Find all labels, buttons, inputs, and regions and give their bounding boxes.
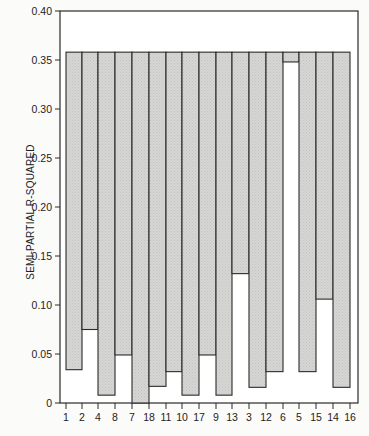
bars (66, 52, 350, 403)
x-tick-label: 6 (280, 411, 286, 423)
bar-10-17 (182, 52, 199, 395)
dendrogram-bar-chart: 00.050.100.150.200.250.300.350.40 124871… (0, 0, 369, 436)
x-tick-label: 12 (260, 411, 272, 423)
bar-9-13 (216, 52, 232, 395)
y-tick-label: 0.35 (32, 54, 53, 66)
x-tick-label: 7 (129, 411, 135, 423)
bar-13-3 (232, 52, 249, 273)
x-tick-label: 5 (296, 411, 302, 423)
x-tick-label: 11 (161, 411, 172, 423)
x-tick-label: 2 (79, 411, 85, 423)
bar-11-10 (166, 52, 182, 371)
y-tick-label: 0 (46, 397, 52, 409)
y-tick-label: 0.40 (32, 5, 53, 17)
bar-4-8 (98, 52, 115, 395)
bar-18-11 (149, 52, 166, 386)
x-axis: 124871811101791331265151416 (63, 403, 356, 423)
y-tick-label: 0.10 (32, 299, 53, 311)
x-tick-label: 15 (310, 411, 322, 423)
bar-15-14 (316, 52, 333, 299)
x-tick-label: 14 (327, 411, 339, 423)
x-tick-label: 18 (143, 411, 155, 423)
x-tick-label: 3 (246, 411, 252, 423)
y-tick-label: 0.05 (32, 348, 53, 360)
bar-17-9 (199, 52, 216, 355)
x-tick-label: 4 (95, 411, 101, 423)
y-tick-label: 0.30 (32, 103, 53, 115)
x-tick-label: 16 (344, 411, 356, 423)
bar-3-12 (249, 52, 266, 387)
bar-12-6 (266, 52, 283, 371)
x-tick-label: 9 (213, 411, 219, 423)
bar-6-5 (283, 52, 299, 62)
x-tick-label: 8 (112, 411, 118, 423)
x-tick-label: 13 (226, 411, 238, 423)
x-tick-label: 10 (176, 411, 188, 423)
y-axis-title: SEMI-PARTIAL R-SQUARED (25, 144, 36, 279)
bar-8-7 (115, 52, 132, 355)
x-tick-label: 17 (193, 411, 205, 423)
bar-7-18 (132, 52, 149, 403)
bar-14-16 (333, 52, 350, 387)
bar-1-2 (66, 52, 82, 370)
x-tick-label: 1 (63, 411, 69, 423)
bar-5-15 (299, 52, 316, 371)
bar-2-4 (82, 52, 98, 329)
